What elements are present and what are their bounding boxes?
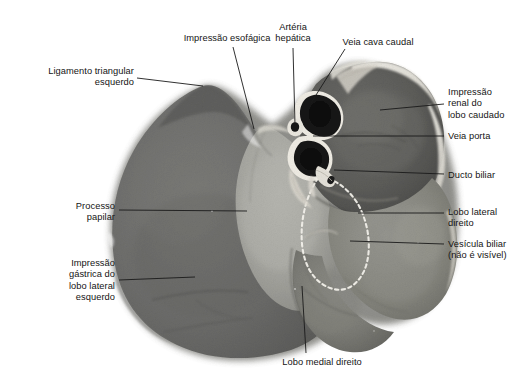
label-line: lobo caudado <box>448 110 504 121</box>
label-line: (não é visível) <box>448 250 507 261</box>
label-impressao-gastrica-lobo-lateral-esquerdo: Impressãogástrica dolobo lateralesquerdo <box>0 258 115 303</box>
liver-specimen-photograph <box>0 0 532 383</box>
label-line: esquerdo <box>0 77 134 88</box>
label-line: Veia porta <box>448 131 490 142</box>
label-line: Veia cava caudal <box>288 37 468 48</box>
label-line: Lobo medial direito <box>232 357 412 368</box>
label-line: renal do <box>448 98 504 109</box>
label-ducto-biliar: Ducto biliar <box>448 170 495 181</box>
label-impressao-renal-lobo-caudado: Impressãorenal dolobo caudado <box>448 87 504 121</box>
label-vesicula-biliar: Vesícula biliar(não é visível) <box>448 239 507 262</box>
label-line: Vesícula biliar <box>448 239 507 250</box>
label-lobo-lateral-direito: Lobo lateraldireito <box>448 207 497 230</box>
label-veia-cava-caudal: Veia cava caudal <box>288 37 468 48</box>
label-line: direito <box>448 218 497 229</box>
label-line: lobo lateral <box>0 281 115 292</box>
anatomy-figure: Ligamento triangularesquerdoImpressão es… <box>0 0 532 383</box>
label-line: Ligamento triangular <box>0 66 134 77</box>
label-processo-papilar: Processopapilar <box>0 201 115 224</box>
label-line: Artéria <box>203 22 383 33</box>
label-line: esquerdo <box>0 292 115 303</box>
label-line: papilar <box>0 212 115 223</box>
label-lobo-medial-direito: Lobo medial direito <box>232 357 412 368</box>
label-veia-porta: Veia porta <box>448 131 490 142</box>
label-line: Lobo lateral <box>448 207 497 218</box>
label-line: Processo <box>0 201 115 212</box>
label-line: Ducto biliar <box>448 170 495 181</box>
label-line: Impressão <box>448 87 504 98</box>
label-line: gástrica do <box>0 269 115 280</box>
label-ligamento-triangular-esquerdo: Ligamento triangularesquerdo <box>0 66 134 89</box>
label-line: Impressão <box>0 258 115 269</box>
